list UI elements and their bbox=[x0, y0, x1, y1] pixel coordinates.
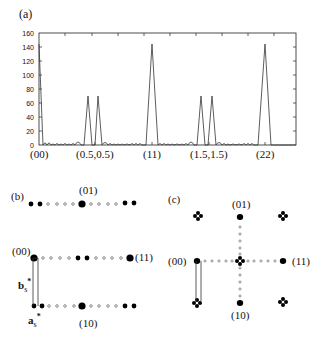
panel-c-spots bbox=[192, 211, 288, 308]
panel-c-label: (c) bbox=[168, 194, 180, 205]
panel-b-diagram bbox=[0, 0, 322, 339]
c-label-00: (00) bbox=[168, 256, 186, 267]
c-label-11: (11) bbox=[292, 256, 310, 267]
c-label-10: (10) bbox=[231, 310, 249, 321]
c-label-01: (01) bbox=[232, 199, 250, 210]
